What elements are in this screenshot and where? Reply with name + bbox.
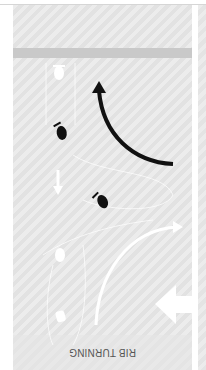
curved-arrow-icon	[92, 81, 173, 164]
rib-boat-outline-icon	[55, 248, 65, 262]
direction-arrow-icon	[53, 170, 63, 195]
diagram-panel: RIB TURNING	[13, 5, 192, 370]
wind-arrow-icon	[155, 285, 192, 324]
rib-boat-outline-icon	[55, 310, 67, 323]
rib-boat-icon	[53, 121, 68, 141]
adjacent-panel-edge	[198, 5, 206, 370]
turning-diagram	[13, 5, 192, 370]
rib-boat-outline-icon	[53, 65, 65, 80]
rib-boat-icon	[91, 189, 111, 211]
